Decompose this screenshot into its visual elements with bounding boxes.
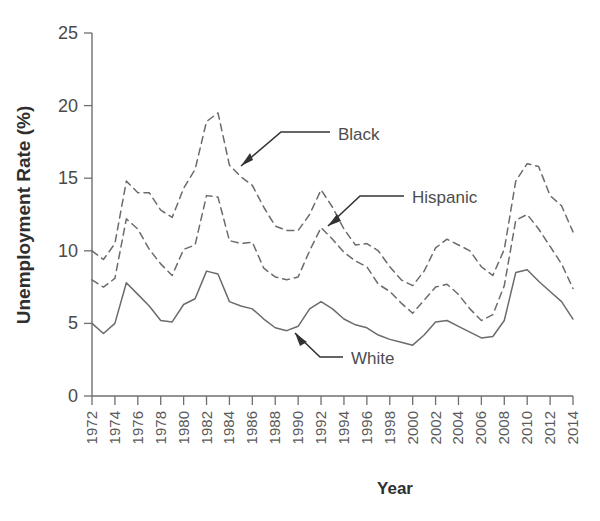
annotation-label-black: Black: [338, 125, 380, 144]
x-tick-label: 1992: [312, 411, 329, 444]
x-tick-label: 1994: [335, 411, 352, 444]
x-tick-label: 1984: [220, 411, 237, 444]
x-tick-label: 1972: [83, 411, 100, 444]
x-tick-label: 2010: [518, 411, 535, 444]
y-tick-label: 20: [58, 96, 78, 116]
axis-group: [84, 33, 573, 405]
x-tick-label: 2008: [495, 411, 512, 444]
x-tick-label: 1976: [129, 411, 146, 444]
annotation-label-white: White: [351, 349, 394, 368]
x-tick-labels: 1972197419761978198019821984198619881990…: [83, 411, 581, 444]
leader-line-white: [295, 333, 343, 357]
x-tick-label: 1996: [358, 411, 375, 444]
x-tick-label: 2014: [564, 411, 581, 444]
x-tick-label: 2004: [449, 411, 466, 444]
leader-line-black: [241, 132, 330, 166]
annotation-layer: Black Hispanic White: [241, 125, 478, 368]
x-tick-label: 1988: [266, 411, 283, 444]
y-axis-title: Unemployment Rate (%): [13, 106, 34, 325]
series-line-white: [92, 270, 573, 346]
data-series-group: [92, 113, 573, 345]
x-axis-title: Year: [377, 479, 413, 498]
x-tick-label: 2000: [404, 411, 421, 444]
annotation-white: White: [295, 333, 394, 368]
arrowhead-white: [295, 333, 307, 346]
y-tick-label: 15: [58, 168, 78, 188]
page-caption: [28, 505, 548, 519]
y-tick-label: 0: [68, 386, 78, 406]
x-tick-label: 1982: [198, 411, 215, 444]
y-tick-label: 10: [58, 241, 78, 261]
y-tick-label: 5: [68, 313, 78, 333]
x-tick-label: 2012: [541, 411, 558, 444]
x-tick-label: 1998: [381, 411, 398, 444]
chart-canvas: 2520151050 19721974197619781980198219841…: [0, 0, 600, 521]
annotation-black: Black: [241, 125, 380, 166]
y-tick-marks: [84, 33, 92, 396]
x-tick-label: 1978: [152, 411, 169, 444]
x-tick-label: 1986: [243, 411, 260, 444]
y-tick-labels: 2520151050: [58, 23, 78, 406]
x-tick-label: 2002: [427, 411, 444, 444]
annotation-hispanic: Hispanic: [328, 188, 478, 226]
arrowhead-black: [241, 153, 253, 166]
x-tick-label: 1990: [289, 411, 306, 444]
x-tick-label: 1974: [106, 411, 123, 444]
unemployment-rate-chart: 2520151050 19721974197619781980198219841…: [0, 0, 600, 521]
y-tick-label: 25: [58, 23, 78, 43]
annotation-label-hispanic: Hispanic: [412, 188, 478, 207]
x-tick-label: 1980: [175, 411, 192, 444]
x-tick-marks: [92, 396, 573, 405]
x-tick-label: 2006: [472, 411, 489, 444]
series-line-black: [92, 113, 573, 286]
